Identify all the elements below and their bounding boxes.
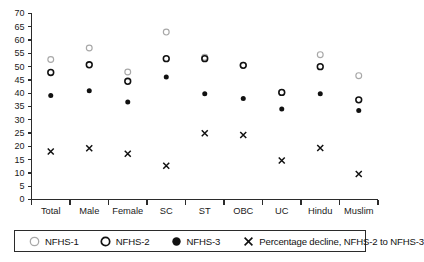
data-point [279,90,285,96]
data-point [202,130,208,136]
y-tick-label: 15 [14,155,24,165]
y-tick-label: 10 [14,168,24,178]
data-point [317,145,323,151]
y-tick-label: 20 [14,141,24,151]
x-tick-label: Muslim [344,206,374,216]
data-point [48,70,54,76]
data-point [48,93,53,98]
series-3 [48,75,361,113]
data-point [202,91,207,96]
data-point [125,69,131,75]
data-point [240,132,246,138]
x-cross-icon [242,235,255,248]
y-tick-label: 50 [14,62,24,72]
x-tick-label: Hindu [308,206,332,216]
data-point [86,45,92,51]
data-point [163,163,169,169]
data-point [48,57,54,63]
data-point [125,151,131,157]
y-tick-label: 40 [14,88,24,98]
legend-item-nfhs3: NFHS-3 [170,235,221,248]
x-tick-label: Female [112,206,143,216]
y-tick-label: 55 [14,48,24,58]
y-tick-label: 45 [14,75,24,85]
y-axis: 0510152025303540455055606570 [14,8,31,204]
y-tick-label: 0 [19,194,24,204]
data-point [356,171,362,177]
data-point [87,88,92,93]
plot-area: 0510152025303540455055606570 TotalMaleFe… [0,0,384,224]
legend-item-decline: Percentage decline, NFHS-2 to NFHS-3 [242,235,424,248]
data-point [317,64,323,70]
data-point [240,62,246,68]
data-point [279,106,284,111]
data-point [125,99,130,104]
x-tick-label: ST [199,206,211,216]
legend-label: NFHS-1 [45,236,79,247]
data-point [163,29,169,35]
x-tick-label: SC [160,206,173,216]
x-tick-label: UC [275,206,289,216]
data-point [241,96,246,101]
y-tick-label: 25 [14,128,24,138]
data-point [356,97,362,103]
legend-label: NFHS-3 [187,236,221,247]
y-tick-label: 35 [14,101,24,111]
data-point [125,78,131,84]
legend-label: NFHS-2 [116,236,150,247]
data-point [164,75,169,80]
data-point [317,52,323,58]
x-tick-label: Total [41,206,61,216]
y-tick-label: 60 [14,35,24,45]
data-point [86,62,92,68]
chart-canvas: 0510152025303540455055606570 TotalMaleFe… [0,0,384,224]
data-point [356,73,362,79]
open-circle-gray-icon [28,235,41,248]
y-tick-label: 70 [14,8,24,18]
data-point [48,148,54,154]
y-tick-label: 30 [14,115,24,125]
filled-circle-black-icon [170,235,183,248]
chart-legend: NFHS-1 NFHS-2 NFHS-3 Percentage decline,… [14,230,366,252]
data-point [163,56,169,62]
series-4 [48,130,362,177]
x-axis [32,200,379,205]
open-circle-black-icon [99,235,112,248]
legend-item-nfhs1: NFHS-1 [28,235,79,248]
y-tick-label: 5 [19,181,24,191]
data-series-layer [48,29,362,177]
y-tick-label: 65 [14,22,24,32]
legend-label: Percentage decline, NFHS-2 to NFHS-3 [259,236,424,247]
legend-item-nfhs2: NFHS-2 [99,235,150,248]
x-tick-labels: TotalMaleFemaleSCSTOBCUCHinduMuslim [41,206,374,216]
x-tick-label: OBC [233,206,253,216]
data-point [356,108,361,113]
data-point [279,157,285,163]
data-point [86,145,92,151]
x-tick-label: Male [79,206,99,216]
data-point [318,91,323,96]
